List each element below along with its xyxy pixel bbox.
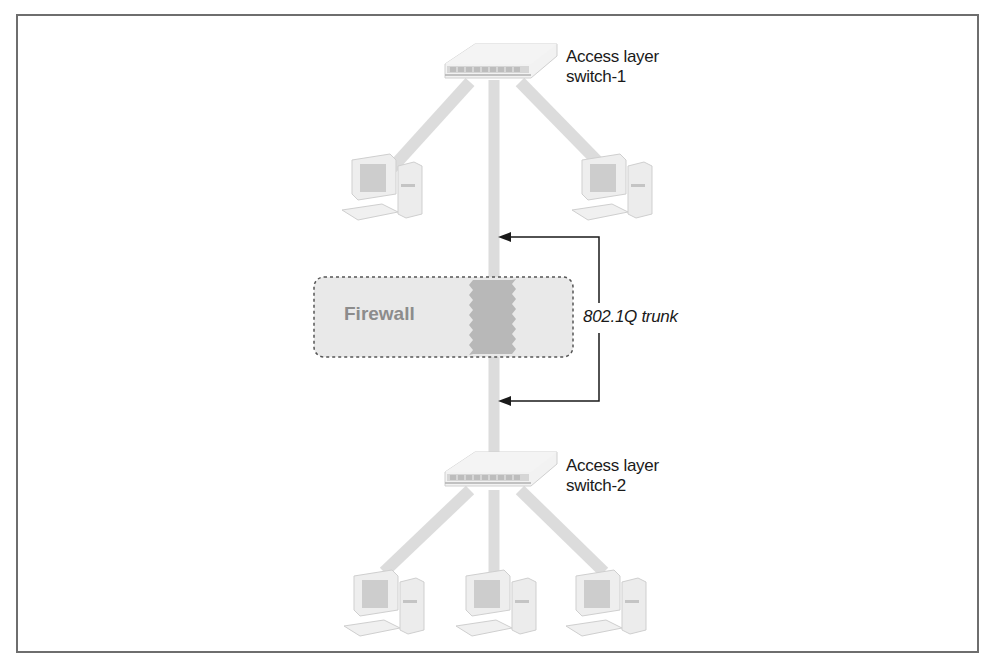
switch-1-label: Access layer switch-1: [566, 47, 659, 87]
switch-1-label-line2: switch-1: [566, 67, 659, 87]
trunk-label: 802.1Q trunk: [583, 307, 678, 327]
pc-icon: [344, 570, 424, 636]
pc-icon: [566, 570, 646, 636]
switch-2-label-line1: Access layer: [566, 456, 659, 476]
arrow-head-bottom: [498, 396, 511, 406]
network-diagram: [0, 0, 998, 662]
switch-1-icon: [445, 44, 557, 78]
arrow-head-top: [498, 232, 511, 242]
switch-1-label-line1: Access layer: [566, 47, 659, 67]
switch-2-label: Access layer switch-2: [566, 456, 659, 496]
firewall-label: Firewall: [344, 303, 415, 325]
firewall-inspection-zone: [469, 279, 516, 355]
pc-icon: [342, 154, 422, 220]
switch-2-icon: [445, 452, 557, 486]
switch-2-label-line2: switch-2: [566, 476, 659, 496]
pc-icon: [456, 570, 536, 636]
pc-icon: [572, 154, 652, 220]
